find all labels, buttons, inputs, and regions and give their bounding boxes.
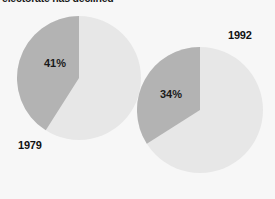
pie-1992-value-label: 34% bbox=[160, 88, 182, 100]
pie-1979-value-label: 41% bbox=[44, 57, 66, 69]
pie-1979-year-label: 1979 bbox=[18, 139, 42, 151]
pie-chart-1979 bbox=[17, 16, 141, 140]
pie-chart-1992 bbox=[137, 47, 263, 173]
pie-1992-year-label: 1992 bbox=[228, 29, 252, 41]
pie-1979-svg bbox=[17, 16, 141, 140]
pie-1992-svg bbox=[137, 47, 263, 173]
pie-chart-figure: electorate has declined 41% 1979 34% 199… bbox=[0, 0, 275, 199]
page-title: electorate has declined bbox=[2, 0, 242, 4]
